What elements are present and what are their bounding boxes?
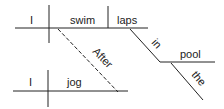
word-subj1: I	[30, 14, 33, 26]
word-obj1: laps	[117, 14, 138, 26]
word-conj: After	[91, 45, 116, 70]
word-subj2: I	[29, 76, 32, 88]
sentence-diagram: I swim laps in pool the After I jog	[0, 0, 224, 109]
word-verb1: swim	[70, 14, 95, 26]
word-prep: in	[150, 36, 165, 50]
word-verb2: jog	[66, 76, 82, 88]
word-art: the	[189, 69, 208, 88]
word-pobj: pool	[180, 48, 201, 60]
